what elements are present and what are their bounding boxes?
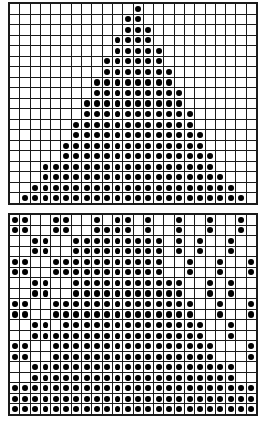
matrix-cell-filled xyxy=(206,373,215,383)
matrix-cell-filled xyxy=(20,226,29,236)
matrix-cell-empty xyxy=(72,15,81,25)
matrix-cell-empty xyxy=(113,15,122,25)
matrix-cell-filled xyxy=(123,36,132,46)
matrix-cell-filled xyxy=(10,383,19,393)
matrix-cell-filled xyxy=(61,373,70,383)
matrix-cell-filled xyxy=(61,352,70,362)
matrix-cell-filled xyxy=(31,320,40,330)
matrix-cell-filled xyxy=(154,193,163,203)
matrix-cell-filled xyxy=(61,215,70,225)
matrix-cell-empty xyxy=(185,99,194,109)
matrix-cell-empty xyxy=(72,78,81,88)
matrix-cell-filled xyxy=(51,162,60,172)
matrix-cell-filled xyxy=(72,310,81,320)
matrix-cell-filled xyxy=(82,383,91,393)
matrix-cell-empty xyxy=(195,215,204,225)
matrix-cell-filled xyxy=(175,130,184,140)
matrix-cell-filled xyxy=(195,183,204,193)
matrix-cell-empty xyxy=(236,278,245,288)
matrix-cell-filled xyxy=(154,268,163,278)
matrix-cell-empty xyxy=(31,57,40,67)
matrix-cell-empty xyxy=(236,268,245,278)
matrix-cell-filled xyxy=(82,299,91,309)
matrix-cell-empty xyxy=(41,352,50,362)
matrix-cell-filled xyxy=(226,331,235,341)
matrix-cell-filled xyxy=(82,130,91,140)
matrix-cell-filled xyxy=(61,362,70,372)
matrix-cell-filled xyxy=(154,141,163,151)
matrix-cell-filled xyxy=(226,247,235,257)
matrix-cell-filled xyxy=(134,404,143,414)
matrix-cell-empty xyxy=(31,162,40,172)
matrix-cell-filled xyxy=(134,120,143,130)
matrix-cell-filled xyxy=(154,289,163,299)
matrix-cell-empty xyxy=(247,88,256,98)
matrix-cell-filled xyxy=(154,320,163,330)
matrix-cell-filled xyxy=(92,99,101,109)
matrix-cell-empty xyxy=(236,151,245,161)
matrix-cell-empty xyxy=(216,236,225,246)
matrix-cell-filled xyxy=(195,394,204,404)
matrix-cell-empty xyxy=(226,120,235,130)
matrix-cell-filled xyxy=(247,257,256,267)
matrix-cell-empty xyxy=(247,67,256,77)
matrix-cell-filled xyxy=(154,247,163,257)
matrix-cell-empty xyxy=(247,120,256,130)
matrix-cell-filled xyxy=(92,257,101,267)
matrix-cell-empty xyxy=(61,278,70,288)
matrix-cell-filled xyxy=(103,141,112,151)
matrix-cell-filled xyxy=(72,172,81,182)
matrix-cell-empty xyxy=(164,236,173,246)
matrix-cell-filled xyxy=(72,247,81,257)
matrix-cell-filled xyxy=(123,162,132,172)
matrix-cell-filled xyxy=(236,226,245,236)
matrix-cell-empty xyxy=(226,151,235,161)
matrix-cell-filled xyxy=(61,404,70,414)
matrix-cell-empty xyxy=(185,78,194,88)
matrix-cell-empty xyxy=(206,36,215,46)
matrix-cell-empty xyxy=(236,46,245,56)
matrix-cell-filled xyxy=(51,341,60,351)
matrix-cell-empty xyxy=(72,215,81,225)
matrix-cell-filled xyxy=(144,362,153,372)
matrix-cell-filled xyxy=(154,310,163,320)
matrix-cell-filled xyxy=(175,193,184,203)
matrix-cell-filled xyxy=(82,331,91,341)
matrix-cell-empty xyxy=(236,88,245,98)
matrix-cell-filled xyxy=(92,404,101,414)
matrix-cell-filled xyxy=(134,289,143,299)
matrix-cell-filled xyxy=(134,67,143,77)
matrix-cell-filled xyxy=(134,352,143,362)
matrix-cell-empty xyxy=(41,4,50,14)
matrix-cell-empty xyxy=(41,299,50,309)
matrix-cell-filled xyxy=(82,151,91,161)
matrix-cell-filled xyxy=(226,320,235,330)
matrix-cell-empty xyxy=(10,331,19,341)
matrix-cell-filled xyxy=(195,130,204,140)
matrix-cell-empty xyxy=(164,46,173,56)
matrix-cell-filled xyxy=(103,57,112,67)
matrix-cell-empty xyxy=(10,4,19,14)
matrix-cell-empty xyxy=(247,247,256,257)
matrix-cell-filled xyxy=(164,289,173,299)
matrix-cell-filled xyxy=(206,341,215,351)
matrix-cell-empty xyxy=(20,320,29,330)
matrix-cell-filled xyxy=(185,193,194,203)
matrix-cell-empty xyxy=(31,268,40,278)
matrix-cell-filled xyxy=(134,88,143,98)
matrix-cell-filled xyxy=(123,15,132,25)
matrix-cell-empty xyxy=(226,130,235,140)
matrix-cell-filled xyxy=(144,331,153,341)
matrix-cell-filled xyxy=(144,162,153,172)
matrix-cell-empty xyxy=(41,268,50,278)
matrix-cell-filled xyxy=(123,172,132,182)
matrix-cell-filled xyxy=(61,341,70,351)
matrix-cell-filled xyxy=(20,257,29,267)
matrix-cell-empty xyxy=(236,15,245,25)
matrix-cell-filled xyxy=(72,141,81,151)
matrix-cell-filled xyxy=(123,373,132,383)
matrix-cell-empty xyxy=(164,215,173,225)
matrix-cell-filled xyxy=(206,183,215,193)
matrix-cell-filled xyxy=(103,257,112,267)
matrix-cell-filled xyxy=(123,341,132,351)
